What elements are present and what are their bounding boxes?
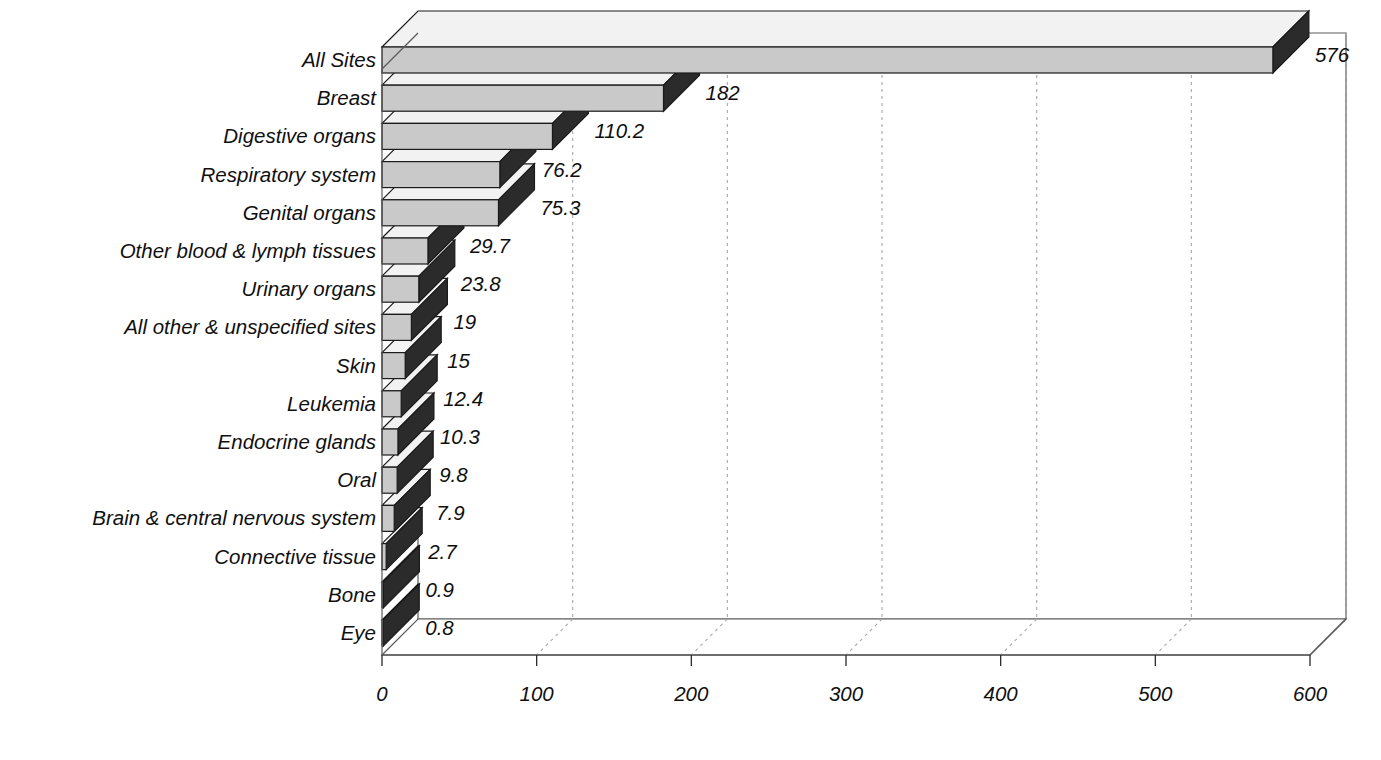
category-label: Endocrine glands bbox=[218, 430, 376, 453]
x-tick-label: 200 bbox=[673, 682, 709, 705]
bar-front-face bbox=[382, 429, 398, 455]
value-label: 29.7 bbox=[469, 234, 511, 257]
bar-front-face bbox=[382, 123, 552, 149]
category-label: Oral bbox=[337, 468, 377, 491]
value-label: 182 bbox=[705, 81, 740, 104]
value-label: 9.8 bbox=[439, 463, 468, 486]
value-label: 576 bbox=[1315, 43, 1350, 66]
value-label: 23.8 bbox=[460, 272, 501, 295]
bar-front-face bbox=[382, 47, 1273, 73]
value-label: 10.3 bbox=[440, 425, 480, 448]
bar-top-face bbox=[382, 11, 1309, 47]
category-label: Genital organs bbox=[243, 201, 376, 224]
value-label: 75.3 bbox=[540, 196, 580, 219]
category-labels: All SitesBreastDigestive organsRespirato… bbox=[92, 48, 377, 644]
category-label: Brain & central nervous system bbox=[92, 506, 376, 529]
category-label: Respiratory system bbox=[201, 163, 376, 186]
value-label: 19 bbox=[453, 310, 476, 333]
x-tick-label: 0 bbox=[376, 682, 388, 705]
x-tick-label: 600 bbox=[1293, 682, 1328, 705]
value-label: 15 bbox=[447, 349, 470, 372]
bar-front-face bbox=[382, 238, 428, 264]
bar bbox=[382, 11, 1309, 73]
category-label: All Sites bbox=[300, 48, 376, 71]
value-label: 0.8 bbox=[425, 616, 454, 639]
bar-front-face bbox=[382, 276, 419, 302]
chart-container: All SitesBreastDigestive organsRespirato… bbox=[0, 0, 1381, 760]
floor-plane bbox=[382, 619, 1346, 655]
bar-front-face bbox=[382, 353, 405, 379]
bar-front-face bbox=[382, 544, 386, 570]
value-label: 12.4 bbox=[443, 387, 483, 410]
bar-front-face bbox=[382, 505, 394, 531]
value-label: 7.9 bbox=[436, 501, 465, 524]
bar-front-face bbox=[382, 467, 397, 493]
x-tick-label: 100 bbox=[520, 682, 555, 705]
bar-front-face bbox=[382, 391, 401, 417]
category-label: All other & unspecified sites bbox=[122, 315, 376, 338]
value-label: 76.2 bbox=[542, 158, 582, 181]
category-label: Connective tissue bbox=[214, 545, 376, 568]
bar-front-face bbox=[382, 85, 663, 111]
category-label: Other blood & lymph tissues bbox=[120, 239, 376, 262]
category-label: Breast bbox=[317, 86, 378, 109]
x-tick-label: 300 bbox=[829, 682, 864, 705]
bar-chart-3d: All SitesBreastDigestive organsRespirato… bbox=[0, 0, 1381, 760]
x-tick-label: 500 bbox=[1138, 682, 1173, 705]
value-label: 110.2 bbox=[594, 119, 644, 142]
category-label: Urinary organs bbox=[242, 277, 376, 300]
value-label: 2.7 bbox=[427, 540, 458, 563]
category-label: Bone bbox=[328, 583, 376, 606]
category-label: Leukemia bbox=[287, 392, 376, 415]
category-label: Digestive organs bbox=[223, 124, 376, 147]
bar-front-face bbox=[382, 200, 498, 226]
category-label: Eye bbox=[341, 621, 376, 644]
bar-front-face bbox=[382, 314, 411, 340]
category-label: Skin bbox=[336, 354, 376, 377]
x-tick-label: 400 bbox=[984, 682, 1019, 705]
bar-front-face bbox=[382, 162, 500, 188]
value-label: 0.9 bbox=[425, 578, 454, 601]
